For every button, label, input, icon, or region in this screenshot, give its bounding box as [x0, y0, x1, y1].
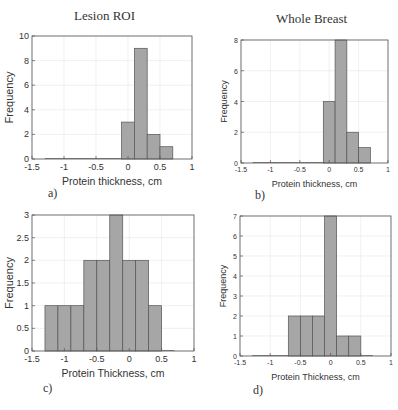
- x-axis-label: Protein Thickness, cm: [271, 372, 359, 382]
- y-tick-label: 2: [233, 313, 237, 320]
- x-tick-label: 0.5: [356, 359, 366, 366]
- histogram-panel-b: -1.5-1-0.500.5102468Protein thickness, c…: [219, 37, 390, 189]
- histogram-bar: [337, 336, 349, 356]
- x-tick-label: 0: [327, 166, 331, 173]
- histogram-bar: [123, 260, 136, 351]
- y-tick-label: 8: [24, 56, 29, 66]
- x-tick-label: 0.5: [154, 162, 167, 172]
- y-tick-label: 0: [234, 160, 238, 167]
- histogram-bar: [312, 316, 324, 356]
- x-tick-label: 0.5: [155, 354, 168, 364]
- x-tick-label: -1.5: [234, 359, 246, 366]
- histogram-bar: [300, 316, 312, 356]
- histogram-bar: [110, 215, 123, 351]
- histogram-bar: [147, 134, 160, 159]
- histogram-bar: [134, 48, 147, 159]
- histogram-bar: [160, 147, 173, 159]
- x-tick-label: 0.5: [354, 166, 364, 173]
- histogram-bar: [323, 102, 335, 164]
- x-tick-label: 0: [127, 354, 132, 364]
- x-tick-label: -1.5: [235, 166, 247, 173]
- x-tick-label: 1: [389, 359, 393, 366]
- y-tick-label: 6: [234, 68, 238, 75]
- histogram-panel-a: -1.5-1-0.500.510246810Protein thickness,…: [3, 31, 195, 187]
- histogram-bar: [136, 260, 149, 351]
- y-tick-label: 1.5: [16, 278, 29, 288]
- x-tick-label: -1: [60, 162, 68, 172]
- histogram-bar: [347, 132, 359, 163]
- histogram-bar: [288, 316, 300, 356]
- y-tick-label: 4: [234, 99, 238, 106]
- y-tick-label: 0: [24, 154, 29, 164]
- x-tick-label: -0.5: [294, 166, 306, 173]
- y-tick-label: 1: [233, 333, 237, 340]
- x-axis-label: Protein Thickness, cm: [61, 367, 164, 379]
- histogram-bar: [45, 306, 58, 351]
- histogram-panel-d: -1.5-1-0.500.5101234567Protein Thickness…: [218, 213, 393, 382]
- x-tick-label: 0: [329, 359, 333, 366]
- histogram-bar: [335, 40, 347, 163]
- x-tick-label: -0.5: [88, 162, 104, 172]
- x-tick-label: -0.5: [294, 359, 306, 366]
- y-tick-label: 10: [19, 31, 29, 41]
- histogram-bar: [71, 306, 84, 351]
- x-tick-label: 1: [191, 354, 196, 364]
- x-tick-label: -1: [267, 359, 273, 366]
- x-tick-label: 1: [386, 166, 390, 173]
- histogram-bar: [325, 216, 337, 356]
- y-tick-label: 0: [233, 353, 237, 360]
- y-tick-label: 8: [234, 37, 238, 44]
- y-tick-label: 2.5: [16, 233, 29, 243]
- y-axis-label: Frequency: [3, 257, 15, 309]
- y-tick-label: 7: [233, 213, 237, 220]
- y-axis-label: Frequency: [219, 80, 229, 123]
- y-tick-label: 3: [233, 293, 237, 300]
- x-tick-label: -1: [267, 166, 273, 173]
- histogram-panel-c: -1.5-1-0.500.5100.511.522.53Protein Thic…: [3, 210, 197, 379]
- y-tick-label: 5: [233, 253, 237, 260]
- x-tick-label: 1: [189, 162, 194, 172]
- x-axis-label: Protein thickness, cm: [62, 175, 162, 187]
- y-axis-label: Frequency: [3, 71, 15, 123]
- x-axis-label: Protein thickness, cm: [272, 179, 358, 189]
- y-tick-label: 2: [24, 255, 29, 265]
- histogram-bar: [122, 122, 135, 159]
- y-tick-label: 2: [234, 129, 238, 136]
- y-tick-label: 6: [233, 233, 237, 240]
- x-tick-label: -0.5: [89, 354, 105, 364]
- histogram-bar: [58, 306, 71, 351]
- y-tick-label: 4: [233, 273, 237, 280]
- histogram-bar: [349, 336, 361, 356]
- x-tick-label: 0: [125, 162, 130, 172]
- y-tick-label: 3: [24, 210, 29, 220]
- y-tick-label: 1: [24, 301, 29, 311]
- histogram-bar: [97, 260, 110, 351]
- y-tick-label: 2: [24, 129, 29, 139]
- histogram-bar: [149, 306, 162, 351]
- histogram-bar: [84, 260, 97, 351]
- y-tick-label: 0.5: [16, 323, 29, 333]
- x-tick-label: -1: [60, 354, 68, 364]
- y-tick-label: 4: [24, 105, 29, 115]
- histogram-figure: -1.5-1-0.500.510246810Protein thickness,…: [0, 0, 398, 410]
- y-tick-label: 0: [24, 346, 29, 356]
- y-axis-label: Frequency: [218, 264, 228, 307]
- histogram-bar: [359, 148, 371, 163]
- y-tick-label: 6: [24, 80, 29, 90]
